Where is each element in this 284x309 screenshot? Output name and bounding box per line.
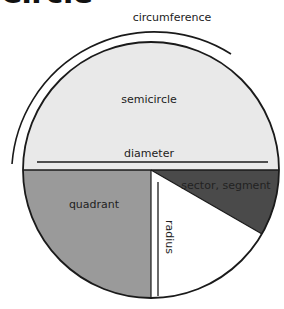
- diameter-label: diameter: [124, 147, 174, 160]
- quadrant-label: quadrant: [69, 198, 120, 211]
- circle-diagram: circumference semicircle diameter quadra…: [0, 0, 284, 309]
- quadrant-region: [23, 170, 151, 298]
- circumference-label: circumference: [133, 11, 212, 24]
- semicircle-label: semicircle: [121, 93, 177, 106]
- sector-segment-label: sector, segment: [181, 179, 271, 192]
- radius-label: radius: [163, 220, 176, 254]
